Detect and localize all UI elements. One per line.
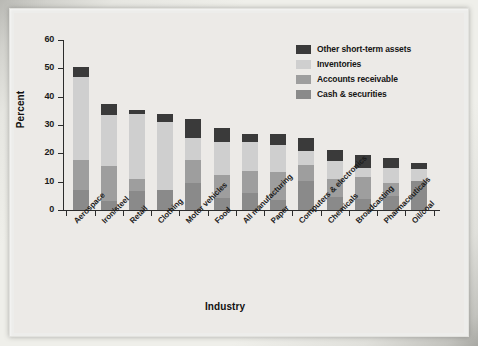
bar-clothing[interactable] [157, 40, 173, 210]
bar-segment [383, 168, 399, 184]
legend-swatch-icon [296, 60, 311, 69]
bar-segment [242, 142, 258, 171]
legend-label: Other short-term assets [317, 44, 411, 54]
x-tick-mark [264, 211, 265, 216]
y-tick-label: 40 [21, 91, 54, 101]
y-tick-mark [58, 210, 63, 211]
x-tick-mark [236, 211, 237, 216]
legend-item[interactable]: Accounts receivable [296, 72, 411, 86]
bar-segment [157, 122, 173, 190]
bar-segment [214, 142, 230, 174]
y-tick-mark [58, 153, 63, 154]
bar-segment [242, 134, 258, 143]
y-tick-mark [58, 125, 63, 126]
chart-legend: Other short-term assetsInventoriesAccoun… [296, 42, 411, 102]
y-tick-label: 60 [21, 34, 54, 44]
y-tick-mark [58, 97, 63, 98]
bar-segment [327, 150, 343, 161]
bar-aerospace[interactable] [73, 40, 89, 210]
x-tick-mark [66, 211, 67, 216]
x-tick-mark [151, 211, 152, 216]
bar-segment [157, 114, 173, 122]
bar-segment [270, 145, 286, 172]
x-tick-mark [321, 211, 322, 216]
x-tick-mark [377, 211, 378, 216]
legend-label: Accounts receivable [317, 74, 398, 84]
bar-all-manufacturing[interactable] [242, 40, 258, 210]
bar-segment [270, 134, 286, 145]
legend-swatch-icon [296, 45, 311, 54]
x-tick-mark [95, 211, 96, 216]
legend-label: Cash & securities [317, 89, 387, 99]
bar-segment [129, 114, 145, 179]
bar-segment [185, 119, 201, 138]
legend-item[interactable]: Inventories [296, 57, 411, 71]
y-tick-label: 30 [21, 119, 54, 129]
bar-segment [101, 115, 117, 166]
bar-segment [411, 163, 427, 169]
y-axis-line [63, 40, 64, 211]
x-tick-mark [179, 211, 180, 216]
bar-retail[interactable] [129, 40, 145, 210]
bar-segment [101, 104, 117, 115]
x-tick-mark [208, 211, 209, 216]
y-tick-mark [58, 40, 63, 41]
legend-swatch-icon [296, 75, 311, 84]
bar-segment [298, 138, 314, 151]
bar-segment [129, 179, 145, 192]
bar-segment [298, 165, 314, 181]
bar-segment [185, 160, 201, 183]
y-tick-label: 0 [21, 204, 54, 214]
bar-segment [298, 151, 314, 165]
y-tick-label: 50 [21, 62, 54, 72]
stacked-bar-chart: 0102030405060 Percent AerospaceIron/stee… [0, 0, 478, 346]
screenshot-root: 0102030405060 Percent AerospaceIron/stee… [0, 0, 478, 346]
legend-swatch-icon [296, 90, 311, 99]
legend-item[interactable]: Other short-term assets [296, 42, 411, 56]
x-axis-title: Industry [160, 301, 290, 312]
y-tick-mark [58, 182, 63, 183]
x-tick-mark [405, 211, 406, 216]
x-tick-mark [123, 211, 124, 216]
bar-iron-steel[interactable] [101, 40, 117, 210]
bar-segment [129, 110, 145, 114]
x-tick-mark [434, 211, 435, 216]
y-tick-mark [58, 68, 63, 69]
legend-label: Inventories [317, 59, 361, 69]
bar-segment [73, 67, 89, 77]
x-tick-mark [292, 211, 293, 216]
y-tick-label: 20 [21, 147, 54, 157]
y-tick-label: 10 [21, 176, 54, 186]
bar-segment [383, 158, 399, 167]
bar-segment [73, 77, 89, 160]
bar-segment [185, 138, 201, 161]
y-axis-title: Percent [15, 70, 26, 150]
bar-segment [242, 171, 258, 193]
x-tick-mark [349, 211, 350, 216]
bar-segment [73, 160, 89, 189]
bar-motor-vehicles[interactable] [185, 40, 201, 210]
bar-segment [214, 128, 230, 142]
legend-item[interactable]: Cash & securities [296, 87, 411, 101]
